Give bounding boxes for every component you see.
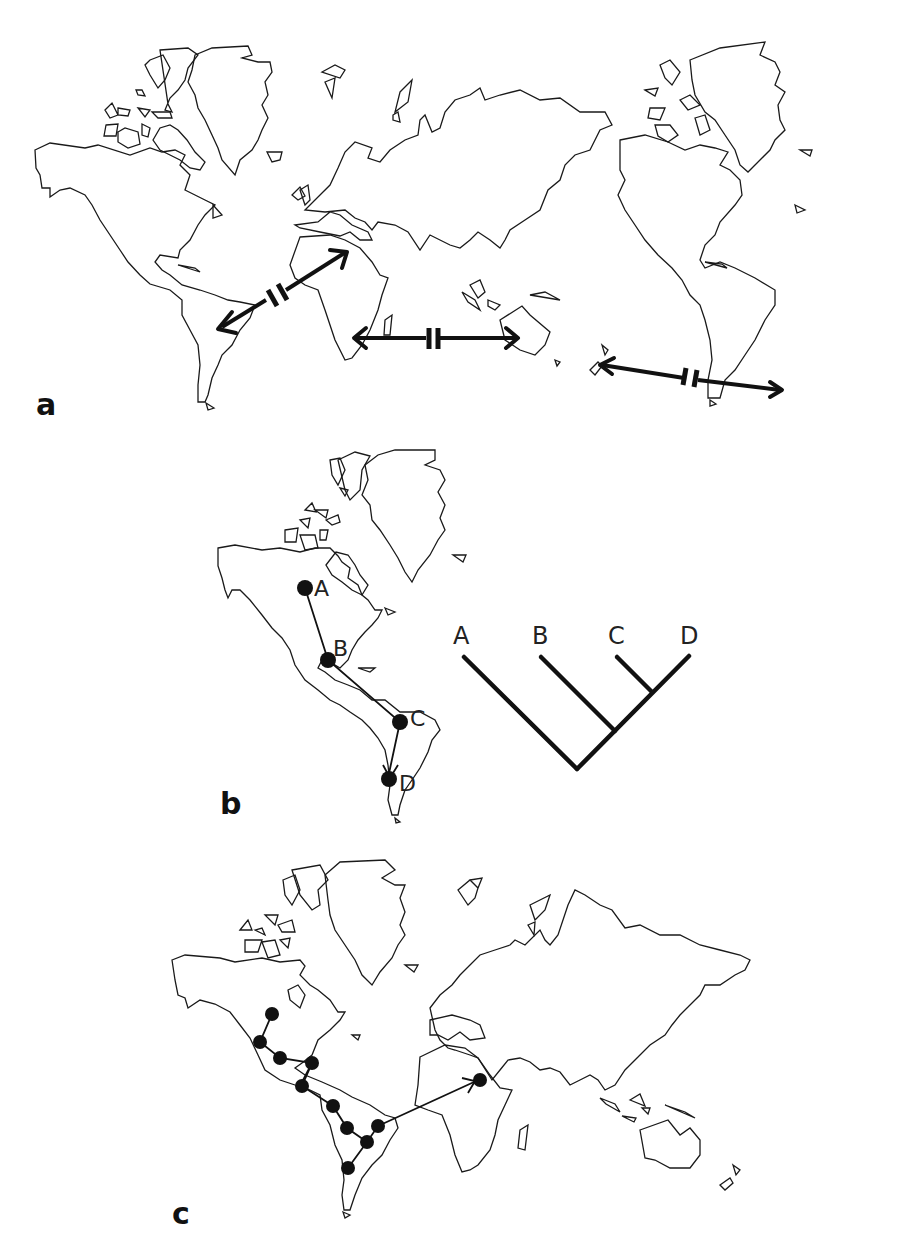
panel-a-americas-left [35,46,282,410]
panel-c-map [172,860,750,1218]
cladogram-tip-d: D [680,622,698,650]
panel-label-b: b [220,786,241,821]
panel-b-node-a [297,580,313,596]
panel-b-cladogram [464,656,689,769]
panel-c-lineage-path [260,1014,367,1168]
panel-b-node-c [392,714,408,730]
panel-b-map-label-b: B [333,636,348,661]
panel-a-eurasia-africa [290,65,612,366]
panel-b-node-d [381,771,397,787]
panel-c-dispersal-arrow [378,1082,474,1126]
panel-c-africa-node [473,1073,487,1087]
panel-a-arrow-africa-australia [354,328,518,349]
panel-a-arrow-newzealand-samerica [600,358,782,397]
panel-b-map-label-c: C [410,706,425,731]
cladogram-tip-c: C [608,622,625,650]
panel-a-arrow-samerica-africa [218,250,347,333]
panel-b-map-label-a: A [314,576,329,601]
cladogram-tip-b: B [532,622,548,650]
panel-label-a: a [36,387,56,422]
cladogram-tip-a: A [453,622,469,650]
panel-a-americas-right [618,42,812,406]
panel-b-dispersal-path [305,588,400,778]
figure-canvas [0,0,907,1242]
panel-b-map-label-d: D [399,771,416,796]
panel-a-map [35,42,812,410]
panel-label-c: c [172,1196,190,1231]
